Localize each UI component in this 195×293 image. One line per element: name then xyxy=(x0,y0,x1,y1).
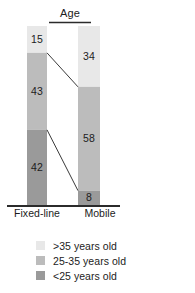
data-label-mobile-over35: 34 xyxy=(78,51,100,62)
legend-item-25to35[interactable]: 25-35 years old xyxy=(36,253,186,268)
legend-swatch-icon-under25 xyxy=(36,271,45,280)
data-label-fixedline-25to35: 43 xyxy=(27,86,47,97)
legend-label-over35: >35 years old xyxy=(53,240,117,252)
data-label-mobile-25to35: 58 xyxy=(78,133,100,144)
legend-item-under25[interactable]: <25 years old xyxy=(36,268,186,283)
category-label-fixed-line: Fixed-line xyxy=(5,207,69,219)
legend: >35 years old 25-35 years old <25 years … xyxy=(36,238,186,283)
data-label-mobile-under25: 8 xyxy=(78,192,100,203)
connector-line-over35-boundary xyxy=(47,53,78,87)
data-label-fixedline-over35: 15 xyxy=(27,34,47,45)
legend-label-under25: <25 years old xyxy=(53,270,117,282)
legend-label-25to35: 25-35 years old xyxy=(53,255,126,267)
legend-swatch-icon-25to35 xyxy=(36,256,45,265)
legend-swatch-icon-over35 xyxy=(36,241,45,250)
stacked-bar-chart: Age 15 43 42 34 58 8 Fixed-line Mobile >… xyxy=(0,0,195,293)
category-label-mobile: Mobile xyxy=(69,207,131,219)
connector-line-25to35-boundary xyxy=(47,130,78,191)
legend-item-over35[interactable]: >35 years old xyxy=(36,238,186,253)
data-label-fixedline-under25: 42 xyxy=(27,162,47,173)
